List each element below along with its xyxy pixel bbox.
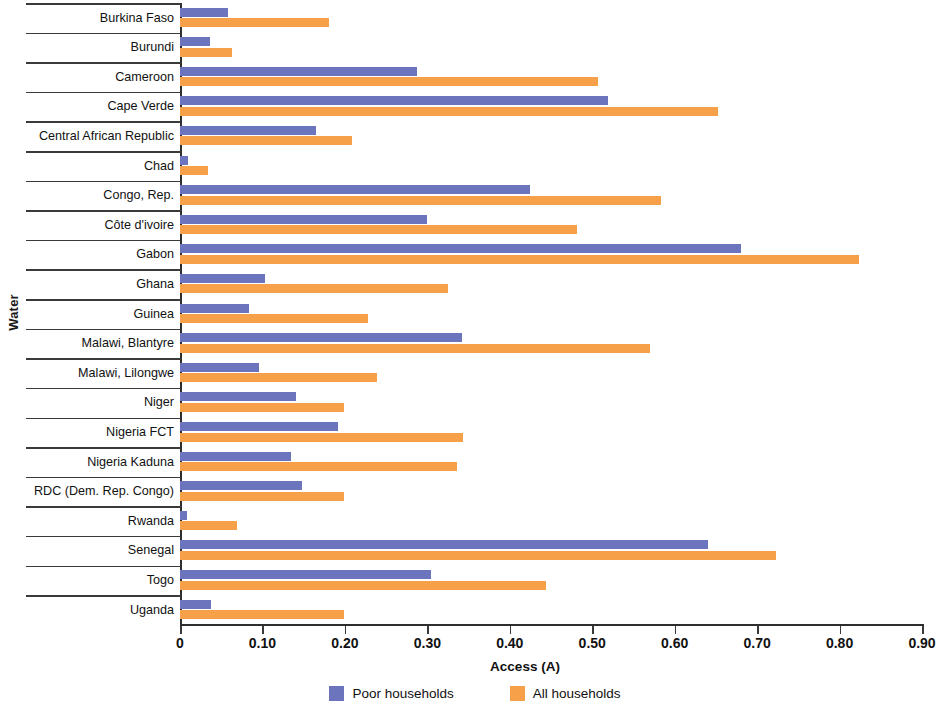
x-tick-label: 0.70 (743, 635, 770, 651)
chart-row: Chad (26, 151, 922, 181)
bar-poor-households (180, 304, 249, 313)
x-tick (592, 626, 594, 634)
bar-chart: Water Burkina FasoBurundiCameroonCape Ve… (0, 0, 950, 711)
bar-group (180, 595, 922, 625)
chart-row: Malawi, Lilongwe (26, 358, 922, 388)
x-tick (757, 626, 759, 634)
chart-row: Burundi (26, 33, 922, 63)
y-axis-title: Water (2, 0, 24, 625)
bar-group (180, 536, 922, 566)
category-label: Central African Republic (26, 121, 174, 151)
bar-poor-households (180, 422, 338, 431)
x-axis-title-label: Access (A) (490, 659, 560, 674)
legend-item[interactable]: Poor households (329, 686, 453, 701)
bar-poor-households (180, 156, 188, 165)
category-label: Nigeria Kaduna (26, 447, 174, 477)
chart-row: Côte d'ivoire (26, 210, 922, 240)
category-label: Niger (26, 388, 174, 418)
legend-item[interactable]: All households (510, 686, 621, 701)
x-tick (262, 626, 264, 634)
category-label: Nigeria FCT (26, 418, 174, 448)
x-tick (510, 626, 512, 634)
bar-all-households (180, 344, 650, 353)
category-label: Cape Verde (26, 92, 174, 122)
x-tick (427, 626, 429, 634)
x-tick-label: 0.40 (496, 635, 523, 651)
category-label: Ghana (26, 269, 174, 299)
bar-poor-households (180, 540, 708, 549)
chart-row: Togo (26, 566, 922, 596)
bar-all-households (180, 18, 329, 27)
x-axis-title: Access (A) (0, 659, 950, 674)
x-tick-label: 0.30 (414, 635, 441, 651)
bar-all-households (180, 403, 344, 412)
category-label: Guinea (26, 299, 174, 329)
category-label: Togo (26, 566, 174, 596)
bar-all-households (180, 314, 368, 323)
category-rows: Burkina FasoBurundiCameroonCape VerdeCen… (26, 3, 922, 625)
x-tick (840, 626, 842, 634)
x-tick (675, 626, 677, 634)
chart-row: Congo, Rep. (26, 181, 922, 211)
x-tick-label: 0.50 (579, 635, 606, 651)
bar-group (180, 121, 922, 151)
chart-row: Cameroon (26, 62, 922, 92)
x-tick-label: 0 (176, 635, 184, 651)
bar-group (180, 329, 922, 359)
chart-row: Central African Republic (26, 121, 922, 151)
bar-all-households (180, 521, 237, 530)
bar-poor-households (180, 8, 228, 17)
bar-all-households (180, 196, 661, 205)
bar-poor-households (180, 67, 417, 76)
bar-all-households (180, 225, 577, 234)
bar-all-households (180, 433, 463, 442)
bar-all-households (180, 166, 208, 175)
bar-poor-households (180, 126, 316, 135)
bar-all-households (180, 136, 352, 145)
bar-group (180, 269, 922, 299)
bar-group (180, 299, 922, 329)
x-tick-label: 0.80 (826, 635, 853, 651)
category-label: Burundi (26, 33, 174, 63)
x-tick-label: 0.90 (908, 635, 935, 651)
category-label: Malawi, Blantyre (26, 329, 174, 359)
bar-all-households (180, 107, 718, 116)
chart-row: Nigeria Kaduna (26, 447, 922, 477)
bar-all-households (180, 462, 457, 471)
bar-all-households (180, 48, 232, 57)
bar-poor-households (180, 244, 741, 253)
category-label: Gabon (26, 240, 174, 270)
bar-all-households (180, 284, 448, 293)
bar-group (180, 418, 922, 448)
bar-group (180, 33, 922, 63)
bar-group (180, 210, 922, 240)
bar-poor-households (180, 452, 291, 461)
bar-all-households (180, 610, 344, 619)
category-label: RDC (Dem. Rep. Congo) (26, 477, 174, 507)
bar-poor-households (180, 274, 265, 283)
chart-row: Guinea (26, 299, 922, 329)
bar-poor-households (180, 511, 187, 520)
legend-swatch-icon (510, 686, 525, 701)
bar-poor-households (180, 37, 210, 46)
bar-poor-households (180, 333, 462, 342)
bar-group (180, 181, 922, 211)
y-axis-title-label: Water (6, 294, 21, 331)
x-tick (180, 626, 182, 634)
x-tick-label: 0.60 (661, 635, 688, 651)
chart-row: RDC (Dem. Rep. Congo) (26, 477, 922, 507)
bar-poor-households (180, 96, 608, 105)
bar-all-households (180, 581, 546, 590)
category-label: Burkina Faso (26, 3, 174, 33)
chart-row: Burkina Faso (26, 3, 922, 33)
legend-label: Poor households (352, 686, 453, 701)
bar-all-households (180, 492, 344, 501)
category-label: Uganda (26, 595, 174, 625)
category-label: Chad (26, 151, 174, 181)
bar-poor-households (180, 185, 530, 194)
bar-poor-households (180, 570, 431, 579)
category-label: Cameroon (26, 62, 174, 92)
chart-row: Niger (26, 388, 922, 418)
bar-group (180, 477, 922, 507)
bar-all-households (180, 373, 377, 382)
